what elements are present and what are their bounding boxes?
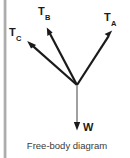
vector-label-tb: TB [38,6,50,20]
vector-w [74,85,80,131]
vector-tc [27,41,77,85]
vector-label-tc-symbol: T [9,26,16,38]
vector-label-ta-subscript: A [111,19,116,28]
vector-label-tb-symbol: T [38,5,45,17]
figure-caption: Free-body diagram [8,141,126,151]
vector-ta-shaft [77,36,109,85]
vector-w-arrowhead [74,122,80,131]
vector-tb [47,28,77,85]
vector-label-tc: TC [9,27,21,41]
vector-ta [77,31,112,85]
vector-label-w: W [83,122,93,133]
vector-tc-shaft [32,46,77,85]
vector-label-tb-subscript: B [45,13,50,22]
vector-tb-shaft [50,33,77,85]
free-body-diagram-figure: TA TB TC W Free-body diagram [0,0,130,158]
vector-label-w-symbol: W [83,121,93,133]
vector-label-ta: TA [104,12,116,26]
vector-ta-arrowhead [105,31,113,37]
vector-label-tc-subscript: C [16,34,21,43]
vector-label-ta-symbol: T [104,11,111,23]
